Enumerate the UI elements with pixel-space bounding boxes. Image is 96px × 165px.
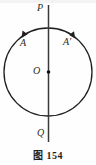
label-arc-a: A	[20, 38, 26, 48]
geometry-diagram	[0, 0, 96, 165]
label-point-o: O	[33, 66, 40, 76]
figure-container: P A A' O Q 图 154	[0, 0, 96, 165]
label-arc-a-prime: A'	[63, 37, 71, 47]
figure-caption-text: 图 154	[33, 150, 63, 161]
figure-caption: 图 154	[0, 147, 96, 162]
label-point-p: P	[37, 3, 43, 13]
center-point-dot	[47, 70, 51, 74]
label-point-q: Q	[37, 128, 44, 138]
